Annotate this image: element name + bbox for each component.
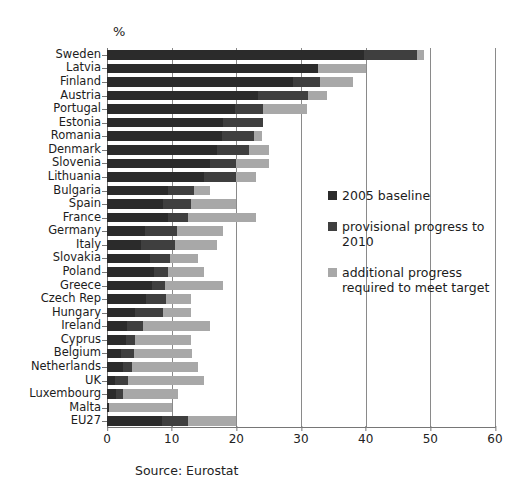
legend-label-baseline: 2005 baseline bbox=[342, 188, 430, 203]
y-axis-label-finland: Finland bbox=[60, 76, 101, 88]
legend-item-additional: additional progress required to meet tar… bbox=[328, 265, 508, 295]
source-note: Source: Eurostat bbox=[135, 463, 238, 478]
legend-item-provisional: provisional progress to 2010 bbox=[328, 219, 508, 249]
bar-segment-provisional bbox=[146, 294, 166, 304]
bar-segment-provisional bbox=[293, 77, 320, 87]
bar-segment-baseline bbox=[107, 91, 258, 101]
bar-segment-additional bbox=[249, 145, 268, 155]
bar-row: Cyprus bbox=[107, 334, 495, 346]
bar-segment-additional bbox=[417, 50, 423, 60]
legend-swatch-baseline bbox=[328, 191, 337, 200]
legend-swatch-provisional bbox=[328, 222, 337, 231]
bar-segment-provisional bbox=[152, 281, 165, 291]
x-tick-label-60: 60 bbox=[487, 432, 502, 446]
bar-segment-additional bbox=[135, 335, 191, 345]
bar-segment-provisional bbox=[127, 321, 143, 331]
bar-segment-provisional bbox=[123, 362, 132, 372]
bar-row: Belgium bbox=[107, 348, 495, 360]
bar-row: Denmark bbox=[107, 144, 495, 156]
y-axis-label-sweden: Sweden bbox=[56, 49, 101, 61]
bar-segment-additional bbox=[320, 77, 353, 87]
bar-row: Luxembourg bbox=[107, 388, 495, 400]
bar-segment-baseline bbox=[107, 294, 146, 304]
legend-label-additional: additional progress required to meet tar… bbox=[342, 265, 489, 295]
bar-segment-baseline bbox=[107, 416, 162, 426]
x-tick-label-10: 10 bbox=[164, 432, 179, 446]
bar-segment-provisional bbox=[168, 186, 195, 196]
x-tick-mark-40 bbox=[366, 426, 367, 431]
bar-segment-baseline bbox=[107, 240, 141, 250]
y-axis-label-luxembourg: Luxembourg bbox=[29, 388, 101, 400]
y-axis-label-bulgaria: Bulgaria bbox=[53, 185, 101, 197]
bar-segment-additional bbox=[263, 104, 307, 114]
y-axis-label-germany: Germany bbox=[48, 225, 101, 237]
bar-segment-baseline bbox=[107, 335, 126, 345]
x-tick-label-50: 50 bbox=[423, 432, 438, 446]
bar-segment-additional bbox=[168, 267, 204, 277]
bar-segment-baseline bbox=[107, 172, 204, 182]
y-axis-label-cyprus: Cyprus bbox=[61, 334, 101, 346]
y-axis-label-poland: Poland bbox=[63, 266, 101, 278]
y-axis-label-romania: Romania bbox=[51, 130, 101, 142]
bar-segment-provisional bbox=[204, 172, 236, 182]
bar-segment-provisional bbox=[121, 349, 134, 359]
bar-segment-additional bbox=[143, 321, 210, 331]
bar-segment-provisional bbox=[115, 376, 128, 386]
x-tick-mark-0 bbox=[107, 426, 108, 431]
bar-row: Ireland bbox=[107, 320, 495, 332]
x-tick-label-40: 40 bbox=[358, 432, 373, 446]
axis-unit-label: % bbox=[113, 24, 125, 39]
bar-segment-baseline bbox=[107, 213, 168, 223]
bar-segment-additional bbox=[254, 131, 262, 141]
bar-segment-provisional bbox=[235, 104, 263, 114]
bar-segment-additional bbox=[191, 199, 236, 209]
bar-segment-provisional bbox=[217, 145, 249, 155]
bar-row: Austria bbox=[107, 90, 495, 102]
legend-item-baseline: 2005 baseline bbox=[328, 188, 508, 203]
bar-segment-additional bbox=[109, 403, 172, 413]
bar-segment-additional bbox=[236, 172, 255, 182]
bar-segment-additional bbox=[177, 226, 223, 236]
y-axis-label-greece: Greece bbox=[60, 280, 101, 292]
bar-segment-additional bbox=[308, 91, 327, 101]
bar-segment-baseline bbox=[107, 362, 123, 372]
bar-segment-provisional bbox=[116, 389, 123, 399]
x-axis-ticks: 0102030405060 bbox=[107, 432, 495, 452]
legend-label-provisional: provisional progress to 2010 bbox=[342, 219, 484, 249]
bar-segment-provisional bbox=[145, 226, 178, 236]
x-tick-mark-50 bbox=[430, 426, 431, 431]
bar-segment-additional bbox=[132, 362, 198, 372]
bar-row: Romania bbox=[107, 130, 495, 142]
y-axis-label-latvia: Latvia bbox=[66, 62, 101, 74]
bar-segment-baseline bbox=[107, 118, 223, 128]
x-tick-mark-60 bbox=[495, 426, 496, 431]
bar-segment-additional bbox=[165, 281, 223, 291]
chart-legend: 2005 baselineprovisional progress to 201… bbox=[328, 188, 508, 311]
bar-segment-additional bbox=[166, 294, 191, 304]
bar-segment-baseline bbox=[107, 389, 116, 399]
bar-segment-baseline bbox=[107, 254, 150, 264]
bar-row: Latvia bbox=[107, 63, 495, 75]
bar-segment-baseline bbox=[107, 267, 154, 277]
bar-row: Netherlands bbox=[107, 361, 495, 373]
bar-row: Estonia bbox=[107, 117, 495, 129]
x-tick-mark-30 bbox=[301, 426, 302, 431]
bar-segment-provisional bbox=[223, 118, 263, 128]
y-axis-label-austria: Austria bbox=[60, 90, 101, 102]
y-axis-label-denmark: Denmark bbox=[48, 144, 101, 156]
y-axis-label-lithuania: Lithuania bbox=[48, 171, 101, 183]
bar-segment-provisional bbox=[154, 267, 169, 277]
bar-segment-baseline bbox=[107, 186, 168, 196]
bar-segment-additional bbox=[128, 376, 204, 386]
bar-segment-baseline bbox=[107, 77, 293, 87]
bar-segment-additional bbox=[170, 254, 198, 264]
bar-segment-provisional bbox=[126, 335, 136, 345]
bar-segment-provisional bbox=[163, 199, 191, 209]
y-axis-label-ireland: Ireland bbox=[61, 320, 101, 332]
bar-segment-baseline bbox=[107, 199, 163, 209]
bar-segment-baseline bbox=[107, 145, 217, 155]
y-axis-label-spain: Spain bbox=[69, 198, 101, 210]
bar-segment-provisional bbox=[222, 131, 254, 141]
y-axis-label-czech-rep: Czech Rep bbox=[41, 293, 101, 305]
x-tick-label-20: 20 bbox=[229, 432, 244, 446]
